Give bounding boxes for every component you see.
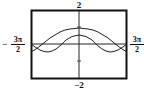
x-min-denominator: 2 [11, 45, 25, 54]
y-max-label: 2 [74, 1, 84, 10]
x-max-denominator: 2 [130, 45, 144, 54]
y-min-label: −2 [71, 81, 87, 90]
x-min-sign: − [2, 39, 7, 49]
x-min-numerator: 3π [11, 35, 25, 45]
x-max-numerator: 3π [130, 35, 144, 45]
